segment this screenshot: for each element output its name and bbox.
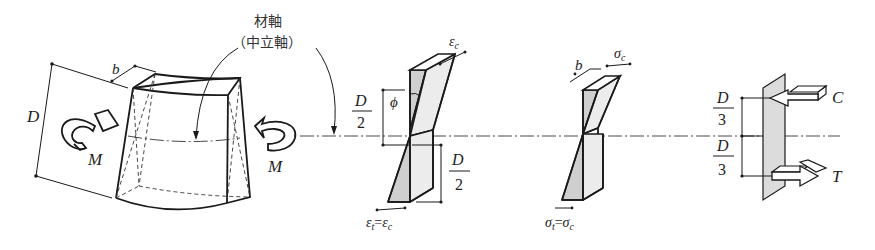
moment-arrow-left: M	[62, 110, 118, 169]
strain-upper-half-den: 2	[357, 114, 365, 131]
strain-bottom-label: εt=εc	[366, 215, 393, 232]
beam-depth-dimension: D	[26, 62, 128, 198]
force-lower-num: D	[716, 137, 729, 154]
stress-width-label: b	[575, 57, 583, 73]
strain-lower-half-den: 2	[455, 176, 463, 193]
tension-label: T	[832, 167, 843, 186]
force-lower-den: 3	[718, 161, 726, 178]
beam-width-label: b	[112, 61, 120, 77]
moment-arrow-right: M	[255, 118, 295, 176]
stress-bottom-label: σt=σc	[545, 215, 575, 232]
force-upper-den: 3	[718, 111, 726, 128]
strain-top-label: εc	[449, 34, 460, 51]
strain-lower-half-num: D	[451, 151, 464, 168]
stress-top-label: σc	[614, 46, 626, 63]
moment-right-label: M	[267, 157, 283, 176]
strain-upper-half-num: D	[354, 92, 367, 109]
beam-width-dimension: b	[110, 61, 156, 83]
axis-label-line2: （中立軸）	[232, 34, 302, 50]
compression-label: C	[832, 88, 844, 107]
strain-angle-label: ϕ	[390, 94, 398, 110]
stress-diagram: b σc σt=σc	[545, 46, 631, 232]
beam-block	[116, 74, 250, 209]
strain-diagram: ϕ εc D 2 D 2 εt=εc	[352, 34, 470, 232]
moment-left-label: M	[87, 150, 103, 169]
bending-diagram: D b M M 材軸 （中立軸）	[0, 0, 875, 250]
axis-label-group: 材軸 （中立軸）	[193, 13, 337, 140]
beam-depth-label: D	[26, 107, 40, 126]
force-diagram: D 3 D 3 C T	[713, 74, 844, 200]
force-upper-num: D	[716, 89, 729, 106]
axis-label-line1: 材軸	[254, 13, 282, 29]
